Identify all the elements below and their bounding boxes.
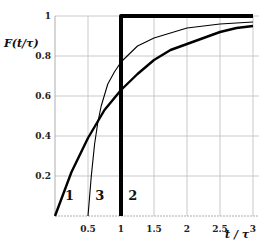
- y-tick-label: 0.6: [35, 91, 51, 101]
- y-tick-label: 1: [45, 11, 51, 21]
- x-tick-label: 3: [250, 224, 256, 234]
- grid: [55, 16, 259, 216]
- x-tick-label: 1: [118, 224, 124, 234]
- x-tick-label: 2: [184, 224, 190, 234]
- curve-labels: 132: [65, 188, 137, 203]
- chart: 0.511.522.530.20.40.60.81 132 F(t/τ) t /…: [0, 0, 266, 251]
- x-tick-label: 0.5: [80, 224, 96, 234]
- y-axis-label: F(t/τ): [3, 37, 39, 50]
- curve-label-2: 2: [128, 188, 137, 203]
- y-tick-label: 0.8: [35, 51, 51, 61]
- y-tick-label: 0.2: [35, 171, 51, 181]
- curve-label-1: 1: [65, 188, 74, 203]
- y-tick-label: 0.4: [35, 131, 51, 141]
- curve-label-3: 3: [95, 188, 104, 203]
- x-tick-label: 1.5: [146, 224, 162, 234]
- x-axis-label: t / τ: [225, 228, 250, 241]
